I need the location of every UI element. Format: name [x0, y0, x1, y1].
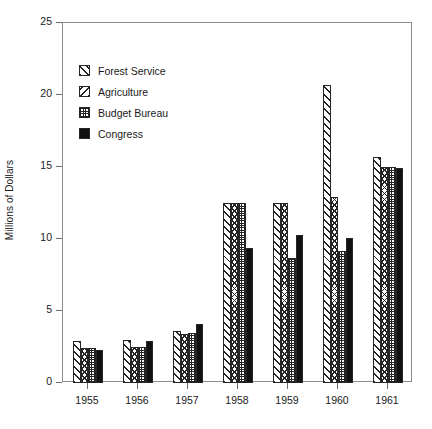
y-tick-label: 25 [40, 15, 52, 27]
bar [88, 348, 96, 383]
bar [396, 168, 404, 383]
x-tick-label: 1959 [263, 394, 311, 406]
legend-label: Congress [98, 128, 143, 140]
bar [281, 203, 289, 383]
y-axis-label: Millions of Dollars [4, 130, 15, 270]
bar [196, 324, 204, 383]
x-tick-mark [287, 382, 288, 389]
chart-legend: Forest Service Agriculture Budget Bureau… [79, 60, 168, 144]
y-tick: 5 [0, 310, 62, 311]
bar [346, 238, 354, 383]
bar [138, 347, 146, 383]
legend-item-agriculture: Agriculture [79, 81, 168, 102]
bar [223, 203, 231, 383]
legend-label: Budget Bureau [98, 107, 168, 119]
bar [181, 334, 189, 383]
bar [296, 235, 304, 383]
y-tick: 20 [0, 94, 62, 95]
bar [331, 197, 339, 383]
bar [146, 341, 154, 383]
budget-bureau-swatch-icon [79, 107, 90, 118]
x-tick-label: 1961 [363, 394, 411, 406]
x-tick-mark [337, 382, 338, 389]
legend-label: Agriculture [98, 86, 148, 98]
bar [81, 348, 89, 383]
bar [231, 203, 239, 383]
x-tick-label: 1956 [113, 394, 161, 406]
bar [388, 167, 396, 383]
bar [123, 340, 131, 383]
legend-label: Forest Service [98, 65, 166, 77]
forest-service-swatch-icon [79, 65, 90, 76]
agriculture-swatch-icon [79, 86, 90, 97]
bar [131, 347, 139, 383]
x-tick-mark [137, 382, 138, 389]
y-tick-label: 20 [40, 87, 52, 99]
bar [246, 248, 254, 383]
bar [238, 203, 246, 383]
bar [273, 203, 281, 383]
y-tick: 0 [0, 382, 62, 383]
legend-item-forest-service: Forest Service [79, 60, 168, 81]
y-tick: 15 [0, 166, 62, 167]
x-tick-label: 1958 [213, 394, 261, 406]
x-tick-label: 1955 [63, 394, 111, 406]
legend-item-congress: Congress [79, 123, 168, 144]
y-tick-label: 10 [40, 231, 52, 243]
y-tick-label: 5 [46, 303, 52, 315]
bar [381, 167, 389, 383]
y-tick-label: 15 [40, 159, 52, 171]
y-tick: 25 [0, 22, 62, 23]
y-tick: 10 [0, 238, 62, 239]
congress-swatch-icon [79, 128, 90, 139]
y-tick-mark [56, 382, 62, 383]
bar [96, 350, 104, 383]
bar [288, 258, 296, 383]
bar [373, 157, 381, 383]
x-tick-mark [187, 382, 188, 389]
bar [73, 341, 81, 383]
x-tick-mark [387, 382, 388, 389]
bar [323, 85, 331, 383]
x-tick-label: 1957 [163, 394, 211, 406]
x-tick-label: 1960 [313, 394, 361, 406]
legend-item-budget-bureau: Budget Bureau [79, 102, 168, 123]
x-tick-mark [87, 382, 88, 389]
y-tick-label: 0 [46, 375, 52, 387]
bar-chart: Millions of Dollars 0510152025 195519561… [0, 0, 432, 429]
bar [338, 251, 346, 383]
bar [188, 333, 196, 383]
bar [173, 331, 181, 383]
x-tick-mark [237, 382, 238, 389]
